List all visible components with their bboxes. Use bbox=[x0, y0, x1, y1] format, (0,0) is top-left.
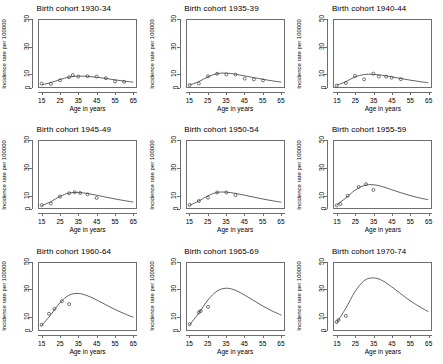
x-axis-tick-label: 25 bbox=[204, 340, 211, 347]
chart-panel: Birth cohort 1960-64Incidence rate per 1… bbox=[0, 243, 148, 364]
y-axis-tick-label: 30 bbox=[314, 285, 325, 292]
y-axis-tick-label: 30 bbox=[19, 164, 30, 171]
y-axis-tick-label: 10 bbox=[19, 192, 30, 199]
y-axis-tick-label: 0 bbox=[167, 84, 178, 91]
panel-title: Birth cohort 1930-34 bbox=[0, 4, 148, 13]
x-axis-tick-label: 55 bbox=[259, 340, 266, 347]
y-axis: 0103050 bbox=[32, 262, 33, 331]
small-multiples-figure: Birth cohort 1930-34Incidence rate per 1… bbox=[0, 0, 443, 364]
x-axis-tick bbox=[392, 335, 393, 338]
y-axis-tick-label-text: 10 bbox=[318, 313, 325, 320]
x-axis-tick bbox=[133, 213, 134, 216]
x-axis: 152535455565 bbox=[333, 335, 432, 336]
x-axis-tick-label: 15 bbox=[186, 218, 193, 225]
x-axis-tick bbox=[355, 92, 356, 95]
plot-area bbox=[38, 140, 137, 209]
x-axis: 152535455565 bbox=[186, 92, 285, 93]
x-axis-tick bbox=[60, 92, 61, 95]
x-axis-title: Age in years bbox=[38, 105, 137, 112]
y-axis-tick-label-text: 10 bbox=[318, 191, 325, 198]
x-axis-tick bbox=[189, 335, 190, 338]
x-axis: 152535455565 bbox=[186, 213, 285, 214]
plot-area bbox=[38, 19, 137, 88]
chart-panel: Birth cohort 1970-74Incidence rate per 1… bbox=[295, 243, 443, 364]
y-axis-tick-label: 50 bbox=[167, 258, 178, 265]
y-axis-tick-label: 0 bbox=[314, 327, 325, 334]
y-axis-tick-label: 50 bbox=[19, 136, 30, 143]
y-axis-title-text: Incidence rate per 100000 bbox=[296, 140, 302, 210]
x-axis-tick bbox=[115, 335, 116, 338]
y-axis-tick-label-text: 30 bbox=[23, 285, 30, 292]
x-axis-tick-label: 45 bbox=[93, 97, 100, 104]
y-axis-tick-label-text: 50 bbox=[23, 15, 30, 22]
y-axis-tick-label-text: 0 bbox=[320, 207, 327, 211]
x-axis-tick bbox=[374, 92, 375, 95]
x-axis-tick-label: 65 bbox=[277, 97, 284, 104]
x-axis-tick-label: 55 bbox=[259, 97, 266, 104]
x-axis-tick bbox=[189, 213, 190, 216]
x-axis-tick-label: 25 bbox=[56, 218, 63, 225]
x-axis-tick-label: 65 bbox=[425, 218, 432, 225]
y-axis-tick-label-text: 10 bbox=[171, 313, 178, 320]
x-axis-tick bbox=[60, 213, 61, 216]
y-axis-tick-label-text: 50 bbox=[23, 258, 30, 265]
y-axis-tick-label-text: 0 bbox=[25, 207, 32, 211]
y-axis-tick-label-text: 0 bbox=[172, 207, 179, 211]
x-axis-tick bbox=[97, 92, 98, 95]
y-axis-tick-label-text: 0 bbox=[320, 328, 327, 332]
panel-title: Birth cohort 1955-59 bbox=[295, 125, 443, 134]
y-axis-tick-label-text: 0 bbox=[25, 328, 32, 332]
x-axis-tick bbox=[374, 213, 375, 216]
y-axis-tick-label: 0 bbox=[314, 84, 325, 91]
x-axis-tick bbox=[133, 92, 134, 95]
x-axis-tick bbox=[42, 92, 43, 95]
plot-area bbox=[333, 19, 432, 88]
x-axis-tick bbox=[410, 92, 411, 95]
y-axis-tick-label-text: 0 bbox=[172, 86, 179, 90]
x-axis-tick-label: 55 bbox=[407, 218, 414, 225]
x-axis-tick bbox=[97, 335, 98, 338]
x-axis-tick bbox=[115, 92, 116, 95]
x-axis-tick-label: 65 bbox=[130, 97, 137, 104]
x-axis-tick-label: 25 bbox=[204, 97, 211, 104]
y-axis-tick-label-text: 50 bbox=[23, 136, 30, 143]
plot-canvas bbox=[38, 140, 137, 209]
x-axis-tick-label: 65 bbox=[277, 218, 284, 225]
x-axis-tick bbox=[42, 335, 43, 338]
x-axis: 152535455565 bbox=[38, 335, 137, 336]
y-axis-tick-label-text: 50 bbox=[171, 258, 178, 265]
data-point-marker bbox=[372, 189, 375, 192]
y-axis-title: Incidence rate per 100000 bbox=[294, 19, 304, 88]
y-axis-tick-label-text: 10 bbox=[23, 70, 30, 77]
y-axis: 0103050 bbox=[32, 19, 33, 88]
x-axis-tick bbox=[78, 213, 79, 216]
x-axis-tick bbox=[115, 213, 116, 216]
x-axis-tick-label: 65 bbox=[425, 340, 432, 347]
y-axis-tick-label: 10 bbox=[167, 313, 178, 320]
x-axis-tick bbox=[226, 213, 227, 216]
x-axis-tick bbox=[208, 92, 209, 95]
y-axis: 0103050 bbox=[180, 19, 181, 88]
panel-title: Birth cohort 1950-54 bbox=[148, 125, 296, 134]
y-axis-tick-label-text: 30 bbox=[318, 164, 325, 171]
x-axis-tick bbox=[60, 335, 61, 338]
chart-panel: Birth cohort 1955-59Incidence rate per 1… bbox=[295, 121, 443, 242]
y-axis-tick-label: 50 bbox=[314, 136, 325, 143]
y-axis-tick-label-text: 50 bbox=[171, 136, 178, 143]
y-axis-tick-label-text: 30 bbox=[318, 285, 325, 292]
x-axis-tick bbox=[78, 92, 79, 95]
y-axis-tick-label: 30 bbox=[314, 164, 325, 171]
y-axis-tick-label-text: 30 bbox=[171, 285, 178, 292]
x-axis-tick bbox=[244, 335, 245, 338]
y-axis-tick-label-text: 50 bbox=[318, 258, 325, 265]
x-axis-tick-label: 35 bbox=[222, 218, 229, 225]
x-axis: 152535455565 bbox=[38, 213, 137, 214]
y-axis-tick-label: 10 bbox=[314, 192, 325, 199]
x-axis-tick bbox=[244, 92, 245, 95]
panel-title: Birth cohort 1935-39 bbox=[148, 4, 296, 13]
x-axis-tick-label: 15 bbox=[333, 340, 340, 347]
chart-panel: Birth cohort 1965-69Incidence rate per 1… bbox=[148, 243, 296, 364]
x-axis-tick bbox=[281, 335, 282, 338]
fitted-curve bbox=[189, 288, 281, 325]
y-axis-tick-label: 0 bbox=[19, 327, 30, 334]
